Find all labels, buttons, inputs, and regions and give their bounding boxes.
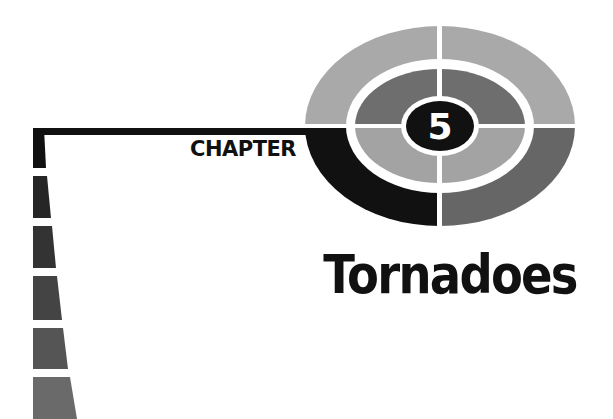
chapter-label: CHAPTER	[190, 137, 296, 161]
chapter-target-emblem: 5	[0, 0, 613, 419]
chapter-title: Tornadoes	[323, 248, 577, 302]
chapter-number: 5	[427, 106, 452, 147]
